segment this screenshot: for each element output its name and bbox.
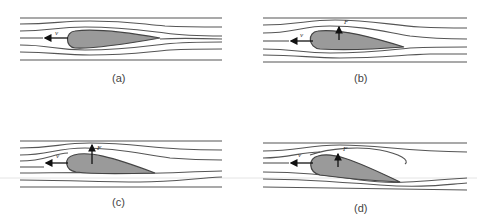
velocity-label-a: v [55, 29, 59, 37]
caption-d: (d) [354, 202, 367, 214]
airfoil-figure: v (a) v F (b) [0, 0, 477, 221]
force-label-d: F [342, 145, 348, 153]
velocity-label-c: v [56, 152, 60, 160]
panel-c: v F (c) [20, 141, 222, 208]
caption-c: (c) [112, 196, 125, 208]
caption-b: (b) [354, 72, 367, 84]
force-label-b: F [343, 18, 349, 26]
airfoil-a [68, 30, 161, 48]
panel-a: v (a) [20, 18, 222, 84]
airfoil-b [310, 31, 404, 50]
caption-a: (a) [112, 72, 125, 84]
panel-b: v F (b) [263, 18, 467, 84]
force-label-c: F [96, 144, 102, 152]
velocity-label-b: v [300, 31, 304, 39]
airfoil-c [67, 154, 155, 174]
velocity-label-d: v [298, 151, 302, 159]
